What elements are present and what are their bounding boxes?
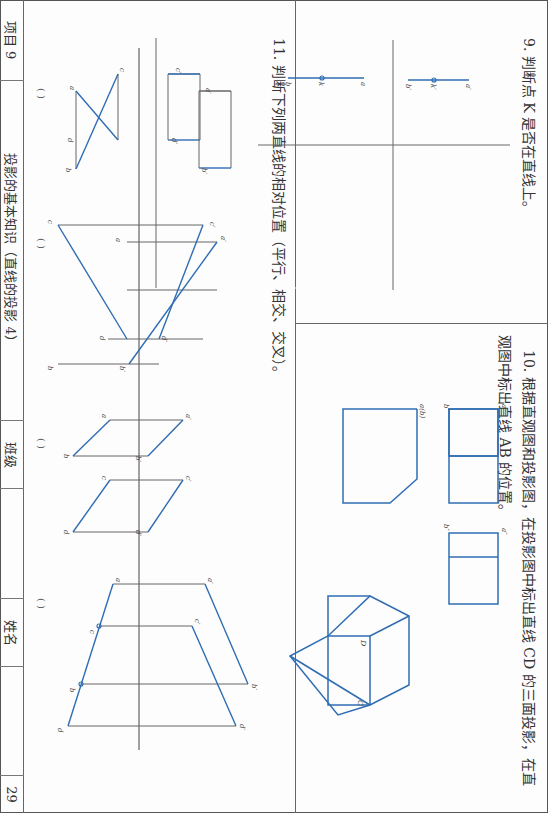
svg-text:a: a <box>114 238 122 242</box>
q9-figure: a′ k′ b′ a k b <box>155 33 548 290</box>
label-b-prime: b′ <box>442 404 450 410</box>
label-C: C <box>356 700 365 706</box>
svg-text:a′: a′ <box>206 578 214 584</box>
svg-text:c′: c′ <box>184 476 192 482</box>
svg-text:d′: d′ <box>160 336 168 342</box>
label-a-double-prime: a″ <box>500 528 508 535</box>
q10-side-view <box>449 533 498 604</box>
svg-text:d′: d′ <box>238 724 246 730</box>
q10-front-view <box>449 409 498 456</box>
svg-text:d′: d′ <box>134 530 142 536</box>
q11-answer-4: ( ) <box>36 598 47 609</box>
label-b: b <box>284 82 292 87</box>
label-D: D <box>359 639 368 647</box>
svg-text:d: d <box>56 728 64 733</box>
q11-figure-2: c′ a′ d′ b′ c a d b ( ) <box>36 220 227 372</box>
label-k-prime: k′ <box>429 84 437 90</box>
svg-text:a′: a′ <box>184 414 192 420</box>
svg-text:d: d <box>66 138 74 143</box>
q10-pictorial <box>290 596 409 715</box>
svg-text:b′: b′ <box>250 684 258 690</box>
svg-text:b: b <box>64 168 72 173</box>
svg-text:c′: c′ <box>208 222 216 228</box>
svg-text:b′: b′ <box>134 456 142 462</box>
svg-text:c′: c′ <box>193 619 201 625</box>
label-a-b: a(b) <box>418 404 426 418</box>
svg-text:b: b <box>46 366 54 371</box>
q11-figure-4: a′ c′ b′ d′ a c b d ( ) <box>36 578 258 733</box>
q10-top-view <box>343 409 417 503</box>
svg-text:c: c <box>118 68 126 72</box>
q11-answer-1: ( ) <box>36 88 47 99</box>
q11-figure-1: c′ a′ d′ b′ c a d b ( ) <box>36 68 231 174</box>
svg-text:d: d <box>62 530 70 535</box>
label-a-prime: a′ <box>464 84 472 90</box>
svg-text:a: a <box>100 414 108 418</box>
svg-text:b′: b′ <box>118 366 126 372</box>
svg-text:d′: d′ <box>170 138 178 144</box>
svg-text:d: d <box>98 336 106 341</box>
q11-figures: c′ a′ d′ b′ c a d b ( ) <box>36 48 258 750</box>
svg-text:a′: a′ <box>204 88 212 94</box>
svg-text:c′: c′ <box>174 68 182 74</box>
label-a: a <box>359 82 367 86</box>
svg-text:a: a <box>68 86 76 90</box>
svg-text:c: c <box>88 630 96 634</box>
q11-answer-2: ( ) <box>36 238 47 249</box>
svg-text:c: c <box>100 476 108 480</box>
q11-answer-3: ( ) <box>36 438 47 449</box>
svg-text:c: c <box>46 220 54 224</box>
svg-text:b′: b′ <box>200 168 208 174</box>
svg-text:b: b <box>62 454 70 459</box>
label-b-double-prime: b″ <box>442 524 450 531</box>
label-b-prime: b′ <box>404 84 412 90</box>
svg-text:b: b <box>68 688 76 693</box>
q10-figure: a′ b′ a″ b″ a(b) D C <box>290 404 508 715</box>
label-k: k <box>317 82 325 86</box>
q11-figure-3: a′ b′ c′ d′ a b c d ( ) <box>36 414 192 536</box>
svg-text:a′: a′ <box>219 236 227 242</box>
worksheet-page: 项目 9 投影的基本知识（直线的投影 4） 班级 姓名 29 9. 判断点 K … <box>0 0 548 813</box>
drawings: a′ k′ b′ a k b a′ b′ a″ b″ a(b) <box>0 0 548 813</box>
label-a-prime: a′ <box>500 404 508 410</box>
svg-text:a: a <box>114 578 122 582</box>
